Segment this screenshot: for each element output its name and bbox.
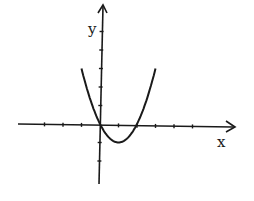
- axes: [18, 5, 235, 184]
- x-axis: [18, 124, 233, 127]
- parabola-curve: [82, 69, 156, 143]
- y-axis-label: y: [87, 20, 97, 38]
- x-axis-label: x: [217, 133, 226, 151]
- parabola-chart: y x: [0, 0, 254, 201]
- y-axis: [99, 6, 103, 184]
